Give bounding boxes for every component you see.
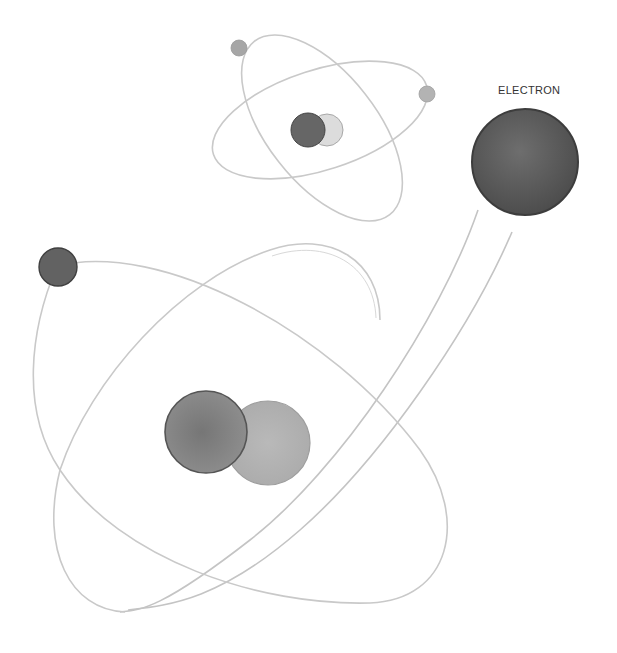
- small-atom: [198, 7, 442, 248]
- small-electron-left: [231, 40, 247, 56]
- large-orbit-2-inner: [272, 250, 376, 318]
- large-electron: [39, 248, 77, 286]
- large-proton: [165, 391, 247, 473]
- atom-diagram: [0, 0, 617, 653]
- small-electron-right: [419, 86, 435, 102]
- small-proton: [291, 113, 325, 147]
- featured-electron: [472, 109, 578, 215]
- featured-electron-group: [120, 109, 578, 612]
- large-atom: [33, 244, 447, 612]
